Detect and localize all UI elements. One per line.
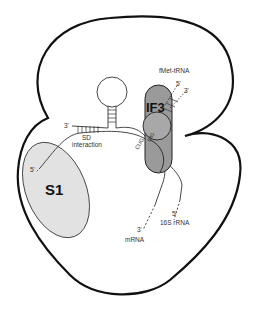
rrna-hairpin-loop (97, 77, 127, 107)
rrna-label: 16S rRNA (160, 219, 190, 226)
mrna-label: mRNA (125, 236, 145, 243)
ribosome-diagram: CUG fMG fMet-tRNA 5' 3' IF3 3' SD intera… (0, 0, 258, 312)
s1-5prime-label: 5' (30, 166, 35, 173)
s1-label: S1 (45, 181, 63, 198)
rrna-5prime-label: 5' (172, 210, 177, 217)
trna-3prime-label: 3' (184, 87, 189, 94)
sd-interaction-label: interaction (72, 141, 102, 148)
if3-label: IF3 (146, 100, 165, 115)
fmet-trna-label: fMet-tRNA (159, 67, 190, 74)
mrna-3prime-label: 3' (137, 226, 142, 233)
trna-5prime-label: 5' (176, 80, 181, 87)
sd-label: SD (82, 134, 91, 141)
sd-3prime-label: 3' (64, 122, 69, 129)
